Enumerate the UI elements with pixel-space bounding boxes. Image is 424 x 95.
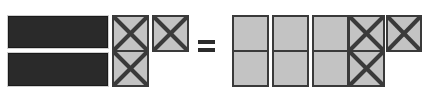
- x-mark-icon: [348, 15, 385, 52]
- x-mark-icon: [386, 15, 422, 52]
- tile-r2c2: [272, 50, 309, 87]
- tile-r1c1: [232, 15, 269, 52]
- tile-r1c3: [312, 15, 349, 52]
- whole-bar-bottom: [8, 53, 108, 86]
- diagram-canvas: [0, 0, 424, 95]
- x-mark-icon: [152, 15, 189, 52]
- whole-bar-top: [8, 16, 108, 48]
- tile-r2c1: [232, 50, 269, 87]
- equals-bar-lower: [198, 48, 215, 52]
- x-mark-icon: [348, 50, 385, 87]
- tile-r2c3: [312, 50, 349, 87]
- equals-bar-upper: [198, 40, 215, 44]
- x-mark-icon: [112, 15, 149, 52]
- tile-r1c2: [272, 15, 309, 52]
- x-mark-icon: [112, 50, 149, 87]
- equals-sign: [198, 40, 215, 52]
